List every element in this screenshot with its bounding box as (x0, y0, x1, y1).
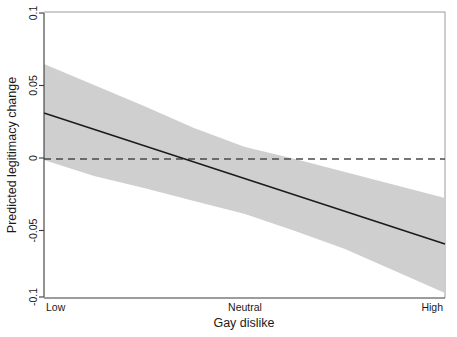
y-tick-label-3: -0.05 (27, 218, 39, 242)
y-tick-label-1: 0.05 (27, 75, 39, 96)
x-axis-title: Gay dislike (213, 316, 274, 330)
y-tick-label-2: 0 (27, 155, 39, 161)
x-tick-label-low: Low (46, 301, 66, 313)
chart-figure: 0.1 0.05 0 -0.05 -0.1 Predicted legitima… (0, 0, 457, 337)
x-tick-label-neutral: Neutral (228, 301, 262, 313)
y-axis-title: Predicted legitimacy change (5, 77, 19, 233)
predicted-legitimacy-change-plot: 0.1 0.05 0 -0.05 -0.1 Predicted legitima… (0, 0, 457, 337)
x-tick-label-high: High (421, 301, 443, 313)
y-tick-label-0: 0.1 (27, 6, 39, 21)
y-tick-label-4: -0.1 (27, 288, 39, 306)
